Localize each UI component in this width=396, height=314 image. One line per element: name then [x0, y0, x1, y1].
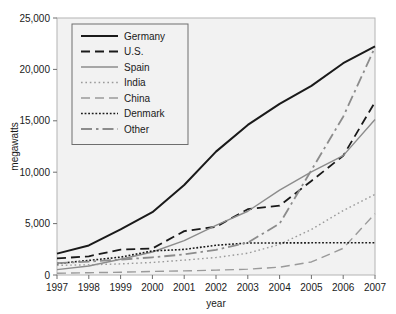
legend-label-other: Other — [124, 124, 150, 135]
chart-figure: 05,00010,00015,00020,00025,0001997199819… — [0, 0, 396, 314]
x-axis-tick-label: 2001 — [173, 282, 196, 293]
x-axis-tick-label: 1997 — [46, 282, 69, 293]
y-axis-tick-label: 0 — [44, 270, 50, 281]
x-axis-tick-label: 2005 — [300, 282, 323, 293]
x-axis-tick-label: 2003 — [237, 282, 260, 293]
y-axis-tick-label: 20,000 — [19, 64, 50, 75]
x-axis-tick-label: 1999 — [109, 282, 132, 293]
legend-label-china: China — [124, 93, 151, 104]
x-axis-tick-label: 2004 — [268, 282, 291, 293]
y-axis-tick-label: 15,000 — [19, 115, 50, 126]
x-axis-tick-label: 2002 — [205, 282, 228, 293]
y-axis-tick-label: 10,000 — [19, 167, 50, 178]
x-axis-tick-label: 2007 — [364, 282, 387, 293]
legend-label-denmark: Denmark — [124, 108, 166, 119]
x-axis-tick-label: 2006 — [332, 282, 355, 293]
legend-label-spain: Spain — [124, 62, 150, 73]
legend-label-germany: Germany — [124, 31, 165, 42]
y-axis-tick-label: 25,000 — [19, 13, 50, 24]
legend-label-u-s: U.S. — [124, 46, 143, 57]
y-axis-tick-label: 5,000 — [25, 218, 50, 229]
y-axis-label: megawatts — [9, 122, 20, 170]
legend-label-india: India — [124, 77, 146, 88]
x-axis-tick-label: 2000 — [141, 282, 164, 293]
line-chart: 05,00010,00015,00020,00025,0001997199819… — [0, 0, 396, 314]
x-axis-label: year — [206, 298, 226, 309]
x-axis-tick-label: 1998 — [78, 282, 101, 293]
